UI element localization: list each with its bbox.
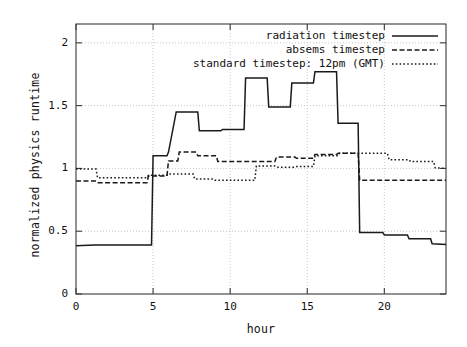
y-tick-label: 1.5 — [28, 99, 68, 112]
y-tick-label: 0 — [28, 287, 68, 300]
legend-entry-label: standard timestep: 12pm (GMT) — [193, 57, 385, 70]
x-tick-label: 0 — [56, 300, 96, 313]
x-tick-label: 15 — [287, 300, 327, 313]
series-line — [76, 153, 446, 180]
x-axis-title: hour — [76, 322, 446, 336]
x-tick-label: 10 — [210, 300, 250, 313]
y-tick-label: 0.5 — [28, 224, 68, 237]
series-line — [76, 152, 446, 183]
y-tick-label: 2 — [28, 36, 68, 49]
legend-line-samples — [392, 36, 438, 64]
plot-canvas — [0, 0, 467, 347]
x-tick-label: 20 — [364, 300, 404, 313]
series-line — [76, 72, 446, 246]
legend-entry-label: absems timestep — [286, 43, 385, 56]
x-tick-label: 5 — [133, 300, 173, 313]
y-tick-label: 1 — [28, 161, 68, 174]
data-series — [76, 72, 446, 246]
legend-entry-label: radiation timestep — [266, 29, 385, 42]
chart-figure: normalized physics runtime hour 00.511.5… — [0, 0, 467, 347]
